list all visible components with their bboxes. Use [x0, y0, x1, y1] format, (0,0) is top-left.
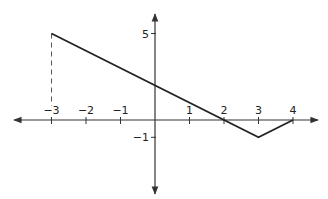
- y-tick-label: 5: [142, 28, 149, 41]
- x-tick-label: 3: [255, 104, 262, 117]
- ticks: −3−2−112345−1: [43, 28, 296, 145]
- function-line: [52, 34, 294, 138]
- line-graph: −3−2−112345−1: [0, 0, 328, 199]
- series: [52, 34, 294, 138]
- x-tick-label: 1: [186, 104, 193, 117]
- x-tick-label: 4: [290, 104, 297, 117]
- x-tick-label: −1: [112, 104, 128, 117]
- y-tick-label: −1: [133, 131, 149, 144]
- x-tick-label: 2: [221, 104, 228, 117]
- x-tick-label: −2: [78, 104, 94, 117]
